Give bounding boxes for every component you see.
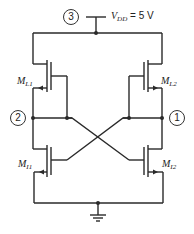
ml1-label: ML1 [17, 70, 33, 88]
ground-icon [90, 213, 106, 223]
schematic-wires [0, 0, 194, 234]
node-1-marker: 1 [169, 110, 185, 126]
ml2-label: ML2 [161, 70, 177, 88]
circuit-diagram: 3 VDD = 5 V 2 1 ML1 ML2 MI1 MI2 [0, 0, 194, 234]
node-2-marker: 2 [10, 110, 26, 126]
vdd-label: VDD = 5 V [111, 10, 154, 23]
mi2-label: MI2 [162, 153, 176, 171]
node-3-marker: 3 [63, 9, 79, 25]
mi1-label: MI1 [18, 153, 32, 171]
